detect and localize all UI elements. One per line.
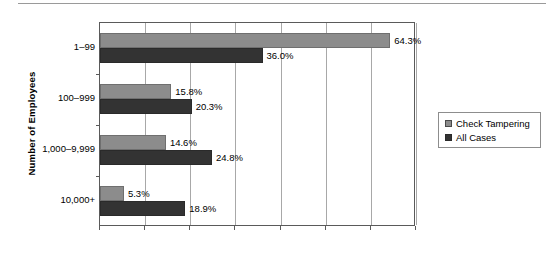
x-axis-tick	[415, 226, 416, 230]
page-rule	[18, 3, 546, 4]
legend-swatch-check-tampering	[445, 120, 452, 127]
x-axis-tick	[325, 226, 326, 230]
x-axis-tick	[280, 226, 281, 230]
bar-value-label: 18.9%	[189, 201, 216, 216]
bar-value-label: 64.3%	[394, 33, 421, 48]
x-axis-tick	[234, 226, 235, 230]
bar-value-label: 15.8%	[175, 84, 202, 99]
bar-value-label: 24.8%	[216, 150, 243, 165]
bar-value-label: 36.0%	[267, 48, 294, 63]
x-axis-tick	[99, 226, 100, 230]
x-axis-tick	[370, 226, 371, 230]
bar-all-cases	[100, 99, 192, 114]
bar-all-cases	[100, 48, 263, 63]
bar-value-label: 14.6%	[170, 135, 197, 150]
bar-value-label: 20.3%	[196, 99, 223, 114]
legend-label-all-cases: All Cases	[456, 132, 496, 143]
y-axis-tick	[96, 176, 100, 177]
chart-figure: Number of Employees 1–99100–9991,000–9,9…	[0, 0, 557, 260]
legend-label-check-tampering: Check Tampering	[456, 118, 530, 129]
legend-item[interactable]: All Cases	[445, 131, 540, 144]
bar-check-tampering	[100, 135, 166, 150]
y-axis-tick-label: 1–99	[3, 42, 95, 52]
y-axis-tick-label: 10,000+	[3, 195, 95, 205]
bar-check-tampering	[100, 33, 390, 48]
bar-check-tampering	[100, 186, 124, 201]
x-axis-tick	[189, 226, 190, 230]
gridline	[371, 23, 372, 225]
y-axis-tick	[96, 74, 100, 75]
legend-item[interactable]: Check Tampering	[445, 117, 540, 130]
gridline	[326, 23, 327, 225]
chart-legend: Check Tampering All Cases	[438, 112, 541, 148]
y-axis-tick-labels: 1–99100–9991,000–9,99910,000+	[0, 0, 95, 260]
y-axis-tick-label: 100–999	[3, 93, 95, 103]
bar-all-cases	[100, 150, 212, 165]
plot-area: 64.3%36.0%15.8%20.3%14.6%24.8%5.3%18.9%	[99, 22, 415, 226]
legend-swatch-all-cases	[445, 134, 452, 141]
x-axis-tick	[144, 226, 145, 230]
y-axis-tick-label: 1,000–9,999	[3, 144, 95, 154]
bar-value-label: 5.3%	[128, 186, 150, 201]
bar-check-tampering	[100, 84, 171, 99]
bar-all-cases	[100, 201, 185, 216]
y-axis-tick	[96, 125, 100, 126]
gridline	[416, 23, 417, 225]
